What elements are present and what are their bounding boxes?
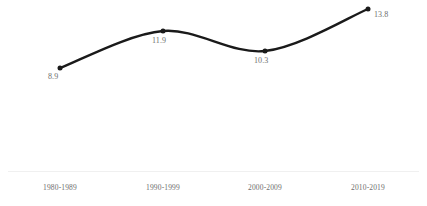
data-label-point-2: 10.3 xyxy=(254,56,268,65)
data-point-marker-0 xyxy=(58,66,63,71)
chart-plot-area xyxy=(0,0,427,206)
data-label-point-3: 13.8 xyxy=(374,10,388,19)
x-tick-label-1: 1990-1999 xyxy=(123,183,203,192)
data-label-point-0: 8.9 xyxy=(48,72,58,81)
line-chart: 8.9 11.9 10.3 13.8 1980-1989 1990-1999 2… xyxy=(0,0,427,206)
x-tick-label-3: 2010-2019 xyxy=(328,183,408,192)
series-line-path xyxy=(60,9,368,68)
data-point-markers xyxy=(58,7,371,71)
x-tick-label-0: 1980-1989 xyxy=(20,183,100,192)
x-axis-line xyxy=(8,171,419,172)
data-point-marker-1 xyxy=(161,29,166,34)
data-point-marker-2 xyxy=(263,49,268,54)
data-point-marker-3 xyxy=(366,7,371,12)
data-label-point-1: 11.9 xyxy=(152,36,166,45)
x-tick-label-2: 2000-2009 xyxy=(225,183,305,192)
